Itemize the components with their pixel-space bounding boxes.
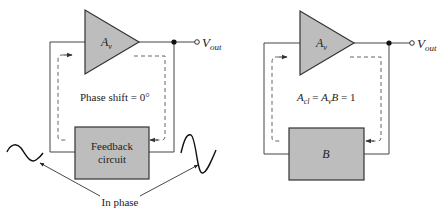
- left-junction-dot: [171, 39, 176, 44]
- input-sine-wave-icon: [7, 145, 43, 161]
- loop-gain-equation: Acl = AvB = 1: [296, 91, 355, 106]
- right-junction-dot: [386, 40, 391, 45]
- right-output-terminal: [410, 41, 415, 46]
- left-output-terminal: [195, 40, 200, 45]
- right-diagram: Vout Av Acl = AvB = 1 B: [264, 11, 437, 180]
- left-amplifier-icon: [85, 10, 139, 74]
- feedback-circuit-label-line1: Feedback: [91, 140, 134, 152]
- phase-shift-label: Phase shift = 0°: [80, 91, 150, 103]
- left-vout-label: Vout: [202, 35, 222, 52]
- right-vout-label: Vout: [417, 36, 437, 53]
- oscillator-feedback-diagram: Vout Av Phase shift = 0° Feedback circui…: [0, 0, 437, 211]
- output-sine-wave-icon: [181, 135, 216, 173]
- left-diagram: Vout Av Phase shift = 0° Feedback circui…: [7, 10, 222, 208]
- feedback-circuit-label-line2: circuit: [98, 153, 126, 165]
- feedback-b-label: B: [322, 147, 330, 161]
- in-phase-label: In phase: [102, 196, 139, 208]
- right-amplifier-icon: [300, 11, 354, 75]
